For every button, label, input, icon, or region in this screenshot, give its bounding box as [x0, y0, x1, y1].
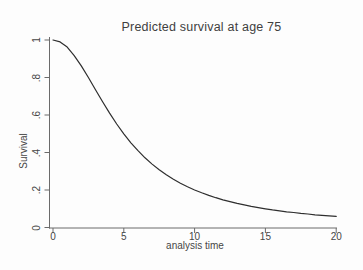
survival-plot-figure: Predicted survival at age 75 Survival an… [0, 0, 363, 270]
survival-curve [53, 40, 336, 216]
y-tick-label: 0 [31, 225, 42, 231]
x-tick-label: 0 [50, 231, 56, 242]
x-tick-label: 10 [189, 231, 200, 242]
x-tick-label: 15 [260, 231, 271, 242]
y-tick-label: .4 [31, 148, 42, 156]
x-tick-label: 20 [331, 231, 342, 242]
y-tick-label: .6 [31, 111, 42, 119]
y-tick-label: .2 [31, 186, 42, 194]
x-tick-label: 5 [121, 231, 127, 242]
plot-area [0, 0, 363, 270]
y-tick-label: .8 [31, 73, 42, 81]
y-tick-label: 1 [31, 37, 42, 43]
